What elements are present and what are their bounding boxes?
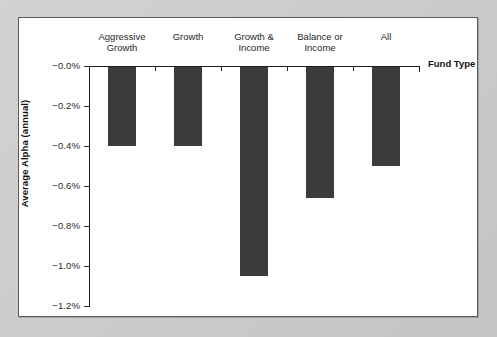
plot-area: −0.0%−0.2%−0.4%−0.6%−0.8%−1.0%−1.2% Aggr… [0,0,497,337]
category-label-4: All [349,31,423,42]
y-tick-0 [84,66,90,67]
bar-2[interactable] [240,67,268,276]
x-axis-end-tick [419,66,420,72]
y-tick-label-wrap-4: −0.8% [18,220,80,232]
y-tick-3 [84,186,90,187]
y-tick-label-0: −0.0% [20,60,80,71]
y-tick-label-wrap-5: −1.0% [18,260,80,272]
bar-0[interactable] [108,67,136,146]
bar-4[interactable] [372,67,400,166]
x-tick-1 [155,66,156,71]
x-tick-4 [353,66,354,71]
y-tick-label-wrap-6: −1.2% [18,300,80,312]
y-tick-2 [84,146,90,147]
y-tick-label-6: −1.2% [20,300,80,311]
bar-1[interactable] [174,67,202,146]
y-tick-4 [84,226,90,227]
figure-frame: −0.0%−0.2%−0.4%−0.6%−0.8%−1.0%−1.2% Aggr… [0,0,497,337]
y-tick-label-4: −0.8% [20,220,80,231]
bar-3[interactable] [306,67,334,198]
category-label-3: Balance or Income [283,31,357,53]
category-label-0: Aggressive Growth [85,31,159,53]
y-tick-1 [84,106,90,107]
y-tick-5 [84,266,90,267]
category-label-1: Growth [151,31,225,42]
y-axis-title: Average Alpha (annual) [19,94,30,214]
x-axis-title: Fund Type [428,58,484,69]
y-tick-6 [84,306,90,307]
y-tick-label-5: −1.0% [20,260,80,271]
y-tick-label-wrap-0: −0.0% [18,60,80,72]
x-tick-2 [221,66,222,71]
x-tick-3 [287,66,288,71]
category-label-2: Growth & Income [217,31,291,53]
